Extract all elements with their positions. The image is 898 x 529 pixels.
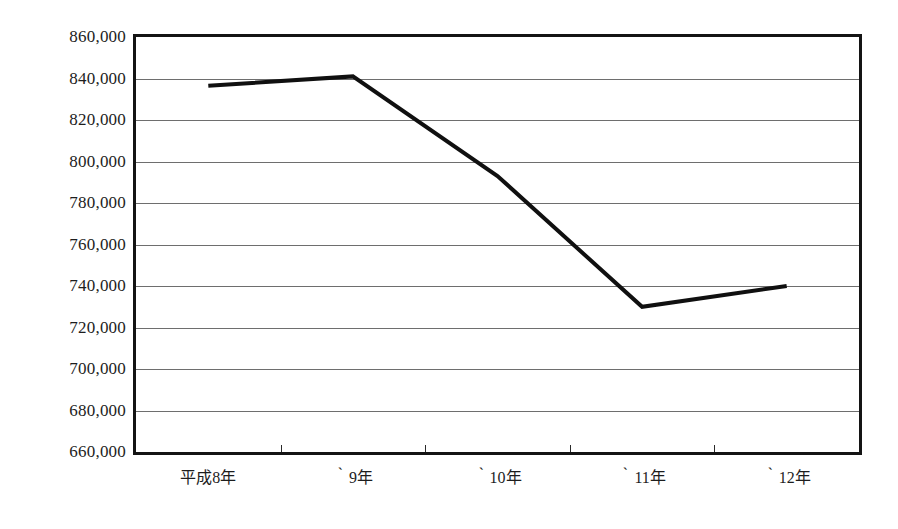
x-axis-labels: 平成8年‵9年‵10年‵11年‵12年 [133,468,862,502]
y-tick-label: 860,000 [0,28,126,45]
x-tick-label: ‵9年 [333,468,373,488]
x-tick-label: ‵10年 [474,468,522,488]
y-tick-label: 740,000 [0,277,126,294]
x-tick-label: ‵11年 [618,468,665,488]
y-tick-label: 660,000 [0,443,126,460]
y-tick-label: 700,000 [0,360,126,377]
y-tick-label: 780,000 [0,194,126,211]
line-chart: 860,000840,000820,000800,000780,000760,0… [0,0,898,529]
y-tick-label: 800,000 [0,153,126,170]
plot-area [133,34,862,455]
x-tick-label: 平成8年 [180,468,236,488]
y-tick-label: 840,000 [0,70,126,87]
y-tick-label: 680,000 [0,402,126,419]
data-series-line [136,37,859,452]
x-tick-label: ‵12年 [763,468,811,488]
y-tick-label: 820,000 [0,111,126,128]
y-tick-label: 760,000 [0,236,126,253]
y-tick-label: 720,000 [0,319,126,336]
y-axis-labels: 860,000840,000820,000800,000780,000760,0… [0,0,126,529]
series-polyline [208,76,786,306]
